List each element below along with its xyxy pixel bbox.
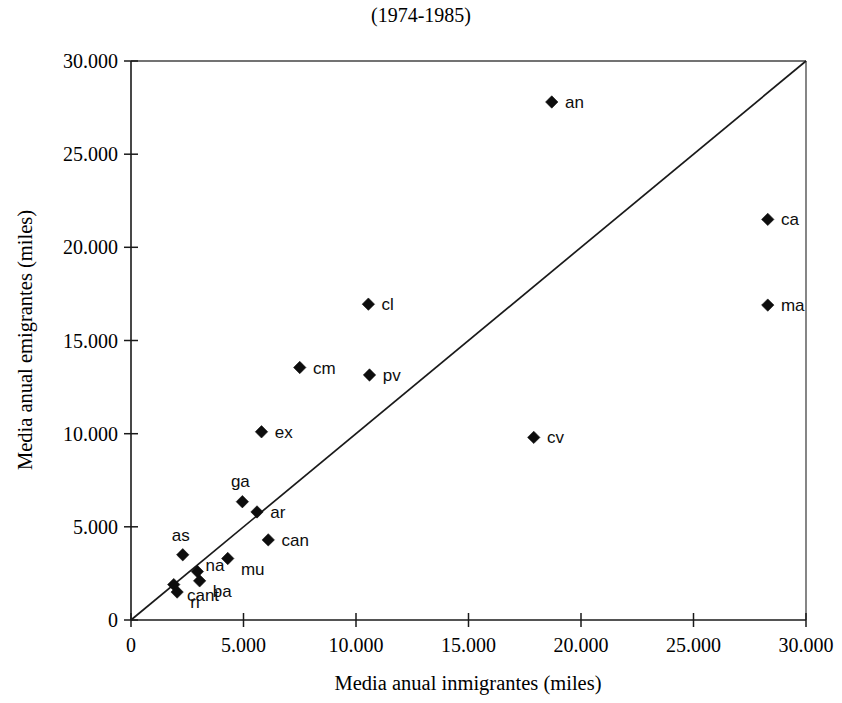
data-point-ma[interactable]: ma — [762, 296, 806, 315]
data-point-cm[interactable]: cm — [294, 359, 336, 378]
diamond-marker-icon — [236, 495, 248, 507]
y-tick-label-20000: 20.000 — [63, 236, 118, 258]
data-point-label-ri: ri — [190, 593, 199, 612]
data-point-can[interactable]: can — [262, 531, 309, 550]
x-tick-label-5000: 5.000 — [221, 634, 266, 656]
data-point-label-can: can — [281, 531, 308, 550]
diamond-marker-icon — [362, 298, 374, 310]
data-point-mu[interactable]: mu — [222, 552, 265, 578]
diamond-marker-icon — [528, 431, 540, 443]
plot-canvas: 0 5.000 10.000 15.000 20.000 25.000 30.0… — [0, 0, 842, 703]
scatter-plot-figure: (1974-1985) 0 — [0, 0, 842, 703]
data-point-label-cv: cv — [547, 428, 565, 447]
data-point-label-pv: pv — [383, 366, 401, 385]
data-point-label-ar: ar — [270, 503, 285, 522]
data-point-as[interactable]: as — [172, 526, 190, 561]
diamond-marker-icon — [762, 299, 774, 311]
diamond-marker-icon — [191, 565, 203, 577]
x-tick-label-10000: 10.000 — [329, 634, 384, 656]
data-point-label-ex: ex — [275, 423, 293, 442]
y-axis-title: Media anual emigrantes (miles) — [14, 210, 37, 470]
y-tick-label-0: 0 — [108, 609, 118, 631]
data-point-label-ga: ga — [231, 472, 250, 491]
x-tick-label-15000: 15.000 — [441, 634, 496, 656]
x-tick-label-20000: 20.000 — [554, 634, 609, 656]
data-point-cl[interactable]: cl — [362, 295, 394, 314]
data-point-an[interactable]: an — [546, 93, 584, 112]
diamond-marker-icon — [251, 506, 263, 518]
x-tick-label-25000: 25.000 — [666, 634, 721, 656]
data-points-layer: ancamaclcmpvexcvgaarcanasmunabacantri — [168, 93, 806, 612]
data-point-label-as: as — [172, 526, 190, 545]
y-tick-label-10000: 10.000 — [63, 423, 118, 445]
data-point-cv[interactable]: cv — [528, 428, 565, 447]
identity-reference-line — [131, 61, 806, 620]
data-point-label-cm: cm — [313, 359, 336, 378]
y-tick-label-30000: 30.000 — [63, 50, 118, 72]
x-tick-label-0: 0 — [126, 634, 136, 656]
diamond-marker-icon — [363, 369, 375, 381]
data-point-label-na: na — [206, 556, 225, 575]
y-tick-label-25000: 25.000 — [63, 143, 118, 165]
y-tick-label-5000: 5.000 — [73, 516, 118, 538]
diamond-marker-icon — [262, 534, 274, 546]
diamond-marker-icon — [255, 426, 267, 438]
diamond-marker-icon — [177, 549, 189, 561]
data-point-ex[interactable]: ex — [255, 423, 293, 442]
y-tick-label-15000: 15.000 — [63, 330, 118, 352]
data-point-na[interactable]: na — [191, 556, 225, 578]
data-point-ca[interactable]: ca — [762, 210, 800, 229]
data-point-label-ca: ca — [781, 210, 800, 229]
data-point-label-an: an — [565, 93, 584, 112]
data-point-label-cl: cl — [382, 295, 394, 314]
diamond-marker-icon — [762, 213, 774, 225]
data-point-pv[interactable]: pv — [363, 366, 401, 385]
diamond-marker-icon — [294, 361, 306, 373]
data-point-ga[interactable]: ga — [231, 472, 250, 507]
x-tick-label-30000: 30.000 — [779, 634, 834, 656]
data-point-label-ma: ma — [781, 296, 805, 315]
data-point-label-mu: mu — [241, 560, 265, 579]
x-axis-title: Media anual inmigrantes (miles) — [335, 672, 602, 695]
diamond-marker-icon — [546, 96, 558, 108]
